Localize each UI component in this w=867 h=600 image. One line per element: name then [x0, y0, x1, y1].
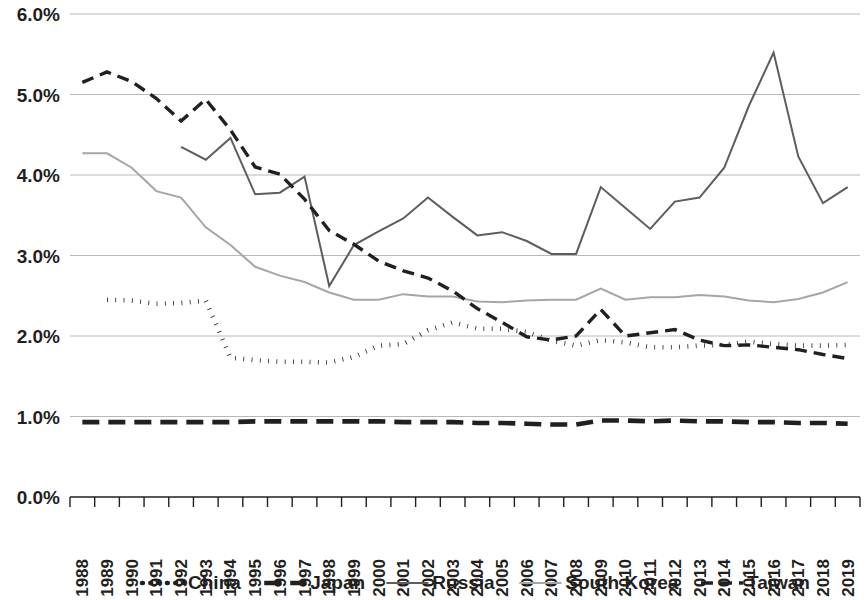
y-axis-tick-label: 4.0%: [17, 165, 60, 186]
x-axis-tick-label: 1996: [271, 559, 290, 597]
y-axis-labels-group: 0.0%1.0%2.0%3.0%4.0%5.0%6.0%: [17, 4, 60, 508]
x-axis-group: [70, 497, 860, 507]
x-axis-tick-label: 1995: [246, 559, 265, 597]
y-axis-tick-label: 2.0%: [17, 326, 60, 347]
legend-label-south-korea: South Korea: [565, 572, 678, 593]
x-axis-tick-label: 2006: [518, 559, 537, 597]
y-axis-tick-label: 3.0%: [17, 246, 60, 267]
data-series-group: [82, 53, 847, 425]
y-axis-tick-label: 1.0%: [17, 407, 60, 428]
legend-label-japan: Japan: [310, 572, 365, 593]
x-axis-tick-label: 1988: [73, 559, 92, 597]
x-axis-tick-label: 1989: [98, 559, 117, 597]
x-axis-tick-label: 1991: [147, 559, 166, 597]
series-line-south-korea: [82, 153, 847, 302]
series-line-japan: [82, 421, 847, 425]
x-axis-tick-label: 2014: [715, 558, 734, 596]
y-axis-tick-label: 0.0%: [17, 487, 60, 508]
x-axis-tick-label: 2005: [493, 559, 512, 597]
legend-label-russia: Russia: [432, 572, 495, 593]
legend-label-china: China: [188, 572, 241, 593]
x-axis-tick-label: 2019: [839, 559, 858, 597]
x-axis-tick-label: 2007: [542, 559, 561, 597]
gridlines-group: [70, 14, 860, 417]
chart-page: 0.0%1.0%2.0%3.0%4.0%5.0%6.0% 19881989199…: [0, 0, 867, 600]
x-axis-tick-label: 2000: [370, 559, 389, 597]
x-axis-tick-label: 2013: [691, 559, 710, 597]
x-axis-tick-label: 1990: [123, 559, 142, 597]
legend-label-taiwan: Taiwan: [747, 572, 810, 593]
y-axis-tick-label: 5.0%: [17, 85, 60, 106]
x-axis-tick-label: 2001: [394, 559, 413, 597]
series-line-russia: [181, 53, 848, 286]
x-axis-tick-label: 2018: [814, 559, 833, 597]
line-chart: 0.0%1.0%2.0%3.0%4.0%5.0%6.0% 19881989199…: [0, 0, 867, 600]
series-line-taiwan: [82, 72, 847, 359]
chart-legend: ChinaJapanRussiaSouth KoreaTaiwan: [142, 572, 810, 593]
y-axis-tick-label: 6.0%: [17, 4, 60, 25]
